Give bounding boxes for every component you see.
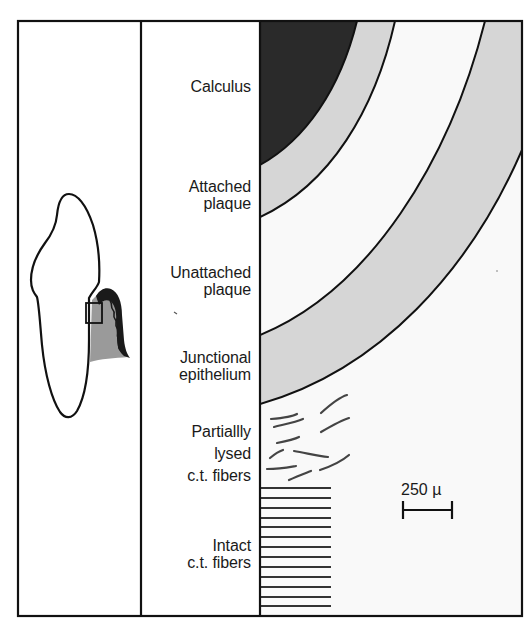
diagram-canvas	[0, 0, 528, 629]
dental-plaque-diagram: Calculus Attached plaque Unattached plaq…	[0, 0, 528, 629]
scale-bar-label: 250 µ	[401, 481, 441, 499]
label-partially-lysed-ct-fibers: Partiallly lysed c.t. fibers	[187, 421, 251, 487]
label-intact-ct-fibers: Intact c.t. fibers	[187, 537, 251, 571]
label-attached-plaque: Attached plaque	[189, 178, 251, 212]
tooth-outline-icon	[31, 194, 99, 417]
layer-labels: Calculus Attached plaque Unattached plaq…	[141, 21, 260, 616]
label-calculus: Calculus	[190, 78, 251, 95]
label-unattached-plaque: Unattached plaque	[170, 264, 251, 298]
label-junctional-epithelium: Junctional epithelium	[179, 349, 251, 383]
tooth-overview	[31, 194, 130, 417]
